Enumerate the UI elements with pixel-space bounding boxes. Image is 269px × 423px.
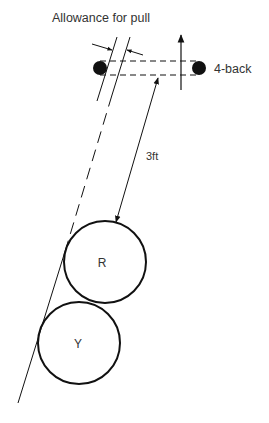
aim-line-dashed (67, 95, 112, 245)
diagram-canvas: Allowance for pull 4-back 3ft R Y (0, 0, 269, 423)
ball-yellow-label: Y (74, 337, 82, 351)
back-label: 4-back (214, 62, 252, 76)
distance-label: 3ft (146, 150, 158, 162)
ball-end-dot (192, 61, 206, 75)
allowance-arrow-left (92, 44, 112, 50)
allowance-arrow-right (127, 50, 143, 55)
ball-start-dot (93, 61, 107, 75)
ball-red-label: R (98, 256, 107, 270)
allowance-label: Allowance for pull (52, 11, 150, 25)
